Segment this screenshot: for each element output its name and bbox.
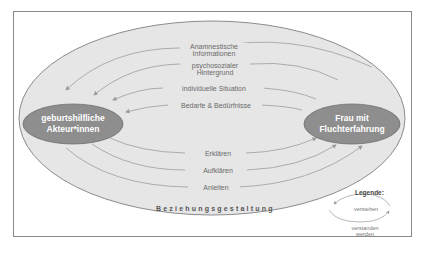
- label-psychosocial: psychosozialer Hintergrund: [182, 62, 248, 76]
- legend-title: Legende:: [355, 189, 384, 196]
- relationship-label: Beziehungsgestaltung: [156, 205, 275, 212]
- label-inform: Aufklären: [190, 167, 246, 174]
- legend-understood-label: verstanden werden: [342, 225, 388, 237]
- label-guide: Anleiten: [192, 184, 240, 191]
- node-refugee-woman-label: Frau mit Fluchterfahrung: [304, 113, 400, 135]
- label-explain: Erklären: [190, 150, 246, 157]
- label-needs: Bedarfe & Bedürfnisse: [170, 102, 262, 109]
- label-anamnestic: Anamnestische Informationen: [180, 43, 248, 57]
- legend-understand-label: verstehen: [346, 206, 386, 212]
- node-obstetric-actors-label: geburtshilfliche Akteur*innen: [23, 113, 123, 135]
- label-situation: individuelle Situation: [164, 85, 264, 92]
